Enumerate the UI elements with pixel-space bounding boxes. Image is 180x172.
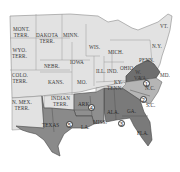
district-marker-1: 1 xyxy=(143,80,150,87)
label-texas: TEXAS xyxy=(42,123,59,129)
label-colo-terr: COLO. TERR. xyxy=(12,73,28,84)
label-mich: MICH. xyxy=(108,50,123,56)
label-ala: ALA. xyxy=(107,110,119,116)
label-nebr: NEBR. xyxy=(44,64,60,70)
district-marker-4: 4 xyxy=(88,104,95,111)
label-ind: IND. xyxy=(107,69,118,75)
label-md: MD. xyxy=(160,73,170,79)
label-indian-terr: INDIAN TERR. xyxy=(51,96,70,107)
district-marker-5: 5 xyxy=(66,121,73,128)
label-penn: PENN. xyxy=(139,58,154,64)
label-ga: GA. xyxy=(127,109,136,115)
label-fla: FLA. xyxy=(137,131,149,137)
label-ohio: OHIO xyxy=(120,66,133,72)
label-vt: VT. xyxy=(160,24,168,30)
label-mo: MO. xyxy=(77,80,87,86)
label-dakota-terr: DAKOTA TERR. xyxy=(36,33,58,44)
label-miss: MISS. xyxy=(93,120,107,126)
label-mont-terr: MONT. TERR. xyxy=(13,27,30,38)
label-wis: WIS. xyxy=(89,45,100,51)
label-sc: S.C. xyxy=(146,103,155,109)
district-marker-3: 3 xyxy=(118,120,125,127)
label-nmex-terr: N. MEX. TERR. xyxy=(12,100,32,111)
label-minn: MINN. xyxy=(63,33,79,39)
district-marker-2: 2 xyxy=(140,96,147,103)
label-wyo-terr: WYO. TERR. xyxy=(12,48,27,59)
label-tenn: TENN. xyxy=(107,86,123,92)
label-la: LA. xyxy=(81,125,90,131)
label-ill: ILL. xyxy=(96,69,106,75)
label-kans: KANS. xyxy=(48,80,64,86)
label-iowa: IOWA xyxy=(70,60,84,66)
label-ny: N.Y. xyxy=(152,44,162,50)
